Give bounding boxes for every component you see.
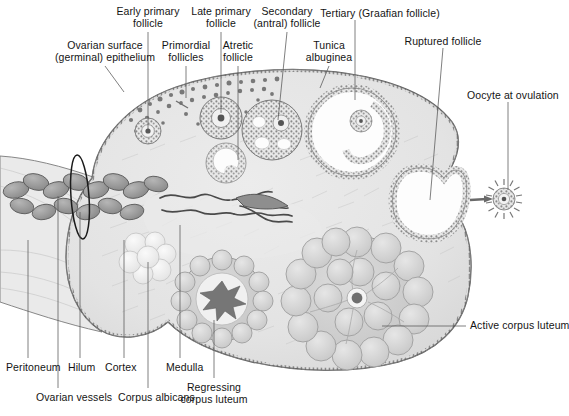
label-text: follicle: [191, 18, 251, 30]
label-text: Primordial: [162, 40, 210, 52]
label-text: Tunica: [306, 40, 352, 52]
secondary-antral-follicle: [242, 100, 302, 160]
label-text: (antral) follicle: [253, 18, 320, 30]
label-text: Atretic: [223, 40, 253, 52]
label-text: Early primary: [116, 6, 179, 18]
label-text: corpus luteum: [180, 394, 247, 406]
label-text: Regressing: [180, 382, 247, 394]
label-ovarian-vessels: Ovarian vessels: [36, 392, 112, 404]
label-primordial-follicles: Primordialfollicles: [162, 40, 210, 63]
label-text: Ruptured follicle: [405, 36, 482, 48]
label-medulla: Medulla: [166, 362, 203, 374]
label-text: Cortex: [105, 362, 137, 374]
label-oocyte-at-ovulation: Oocyte at ovulation: [467, 90, 559, 102]
label-active-corpus-luteum: Active corpus luteum: [470, 320, 569, 332]
label-text: Peritoneum: [6, 362, 61, 374]
label-secondary-antral-follicle: Secondary(antral) follicle: [253, 6, 320, 29]
label-tertiary-graafian-follicle: Tertiary (Graafian follicle): [320, 8, 440, 20]
label-tunica-albuginea: Tunicaalbuginea: [306, 40, 352, 63]
ruptured-follicle: [393, 168, 467, 239]
label-hilum: Hilum: [68, 362, 95, 374]
label-ovarian-surface-epithelium: Ovarian surface(germinal) epithelium: [55, 40, 155, 63]
label-peritoneum: Peritoneum: [6, 362, 61, 374]
tertiary-graafian-follicle: [308, 88, 396, 176]
ovulation-arrow: [470, 195, 493, 202]
label-text: follicles: [162, 52, 210, 64]
label-text: Ovarian surface: [55, 40, 155, 52]
label-text: Tertiary (Graafian follicle): [320, 8, 440, 20]
label-atretic-follicle: Atreticfollicle: [223, 40, 253, 63]
label-text: Ovarian vessels: [36, 392, 112, 404]
label-early-primary-follicle: Early primaryfollicle: [116, 6, 179, 29]
leader-ovarian-surface-epithelium: [105, 66, 124, 92]
label-regressing-corpus-luteum: Regressingcorpus luteum: [180, 382, 247, 405]
label-text: Oocyte at ovulation: [467, 90, 559, 102]
label-late-primary-follicle: Late primaryfollicle: [191, 6, 251, 29]
label-text: follicle: [116, 18, 179, 30]
label-text: albuginea: [306, 52, 352, 64]
label-text: Hilum: [68, 362, 95, 374]
label-text: Medulla: [166, 362, 203, 374]
label-ruptured-follicle: Ruptured follicle: [405, 36, 482, 48]
label-text: follicle: [223, 52, 253, 64]
label-text: Secondary: [253, 6, 320, 18]
label-text: Late primary: [191, 6, 251, 18]
label-text: Active corpus luteum: [470, 320, 569, 332]
label-cortex: Cortex: [105, 362, 137, 374]
label-text: (germinal) epithelium: [55, 52, 155, 64]
atretic-follicle: [206, 143, 246, 183]
